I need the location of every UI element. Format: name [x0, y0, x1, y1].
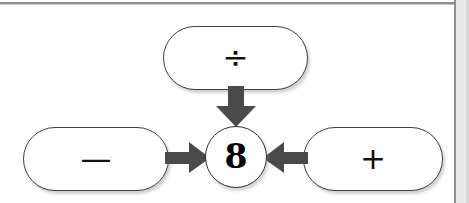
plus-icon: + — [360, 143, 386, 174]
plus-operator-node[interactable]: + — [303, 127, 443, 191]
center-number-value: 8 — [225, 140, 248, 173]
minus-icon: — — [81, 143, 112, 174]
divide-operator-node[interactable]: ÷ — [163, 26, 308, 90]
center-number-node[interactable]: 8 — [205, 126, 267, 188]
arrow-left-icon — [262, 142, 308, 174]
arrow-down-icon — [214, 86, 258, 128]
page-top-rule-shadow — [0, 4, 457, 5]
divide-icon: ÷ — [223, 42, 249, 73]
diagram-canvas: ÷ — 8 + — [0, 0, 469, 203]
minus-operator-node[interactable]: — — [23, 127, 169, 191]
